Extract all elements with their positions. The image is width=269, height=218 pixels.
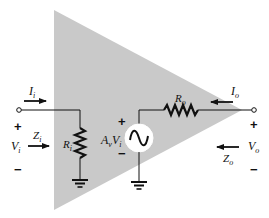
output-plus-sign: + [250, 117, 258, 132]
input-plus-sign: + [14, 119, 22, 134]
input-minus-sign: − [14, 162, 22, 177]
amplifier-circuit-diagram: Ii + Vi − Zi Ri + AvVi − Ro Io [0, 0, 269, 218]
input-impedance-label: Zi [33, 129, 41, 144]
input-current-label: Ii [28, 84, 35, 100]
output-current-label: Io [230, 84, 239, 100]
input-terminal[interactable] [17, 108, 22, 113]
output-minus-sign: − [250, 162, 258, 177]
ground-icon [131, 182, 147, 189]
output-terminal[interactable] [252, 108, 257, 113]
output-voltage-label: Vo [248, 139, 259, 155]
source-plus-sign: + [118, 114, 126, 129]
output-impedance-label: Zo [223, 152, 233, 167]
input-voltage-label: Vi [11, 139, 21, 155]
source-minus-sign: − [118, 146, 126, 161]
